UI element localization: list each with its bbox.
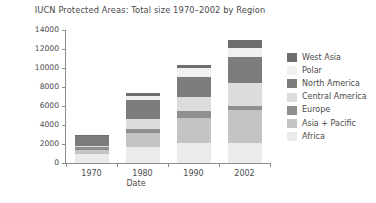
y-axis-tick <box>62 49 66 50</box>
legend-swatch <box>287 66 297 75</box>
bar-segment <box>228 48 262 57</box>
bar-segment <box>126 119 160 129</box>
x-axis-tick <box>66 163 67 167</box>
legend: West AsiaPolarNorth AmericaCentral Ameri… <box>287 51 367 143</box>
y-axis-tick-label: 12000 <box>35 45 59 53</box>
legend-label: North America <box>302 80 360 88</box>
bar-segment <box>228 143 262 163</box>
y-axis-tick-label: 0 <box>54 159 59 167</box>
y-axis-tick <box>62 87 66 88</box>
bar-segment <box>75 154 109 163</box>
y-axis-tick <box>62 30 66 31</box>
y-axis-tick <box>62 68 66 69</box>
bar-segment <box>126 147 160 163</box>
x-axis-tick <box>117 163 118 167</box>
legend-swatch <box>287 93 297 102</box>
legend-swatch <box>287 132 297 141</box>
y-axis-tick-label: 2000 <box>40 140 59 148</box>
legend-label: Asia + Pacific <box>302 120 356 128</box>
legend-label: West Asia <box>302 54 341 62</box>
x-axis-tick <box>270 163 271 167</box>
legend-item[interactable]: Africa <box>287 130 367 143</box>
bar-1970[interactable] <box>75 135 109 163</box>
legend-swatch <box>287 79 297 88</box>
y-axis-tick-label: 4000 <box>40 121 59 129</box>
x-axis-tick <box>168 163 169 167</box>
bar-segment <box>177 68 211 77</box>
bar-segment <box>75 136 109 146</box>
bar-segment <box>228 110 262 143</box>
legend-label: Central America <box>302 93 367 101</box>
x-axis-label-1990: 1990 <box>183 169 203 178</box>
x-axis-title: Date <box>0 179 272 188</box>
legend-swatch <box>287 106 297 115</box>
legend-item[interactable]: Asia + Pacific <box>287 117 367 130</box>
chart-container: IUCN Protected Areas: Total size 1970–20… <box>0 0 376 203</box>
x-axis-label-2002: 2002 <box>234 169 254 178</box>
bar-segment <box>126 100 160 119</box>
legend-item[interactable]: Central America <box>287 91 367 104</box>
y-axis-tick-label: 14000 <box>35 26 59 34</box>
bar-segment <box>177 143 211 163</box>
bar-segment <box>228 83 262 106</box>
legend-swatch <box>287 119 297 128</box>
legend-item[interactable]: Europe <box>287 104 367 117</box>
legend-label: Africa <box>302 133 325 141</box>
legend-label: Polar <box>302 67 322 75</box>
bar-segment <box>126 133 160 147</box>
bar-segment <box>228 57 262 84</box>
x-axis-tick <box>219 163 220 167</box>
bar-1980[interactable] <box>126 93 160 163</box>
legend-item[interactable]: West Asia <box>287 51 367 64</box>
y-axis-tick <box>62 125 66 126</box>
bar-segment <box>177 97 211 111</box>
chart-title: IUCN Protected Areas: Total size 1970–20… <box>0 5 300 15</box>
legend-swatch <box>287 53 297 62</box>
bar-segment <box>177 111 211 119</box>
bar-segment <box>177 77 211 97</box>
y-axis-tick-label: 8000 <box>40 83 59 91</box>
y-axis-tick-label: 6000 <box>40 102 59 110</box>
bar-2002[interactable] <box>228 40 262 163</box>
legend-item[interactable]: Polar <box>287 64 367 77</box>
y-axis-tick-label: 10000 <box>35 64 59 72</box>
plot-area: 02000400060008000100001200014000 1970198… <box>66 30 270 163</box>
bar-segment <box>228 40 262 49</box>
legend-item[interactable]: North America <box>287 77 367 90</box>
bar-1990[interactable] <box>177 65 211 163</box>
bar-segment <box>177 118 211 143</box>
x-axis-label-1970: 1970 <box>81 169 101 178</box>
legend-label: Europe <box>302 106 330 114</box>
x-axis-label-1980: 1980 <box>132 169 152 178</box>
y-axis-tick <box>62 144 66 145</box>
y-axis-tick <box>62 106 66 107</box>
